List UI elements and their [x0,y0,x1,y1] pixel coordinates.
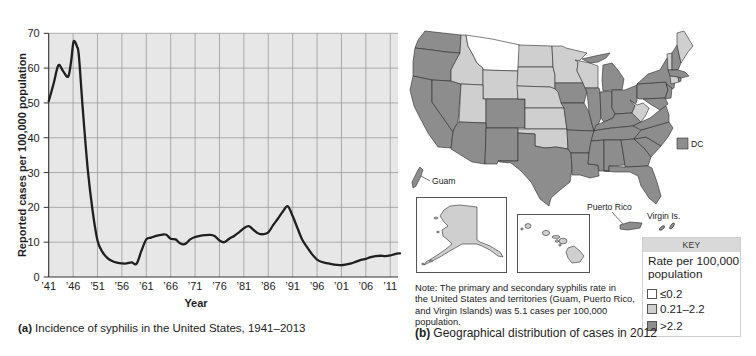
note-line-1: Note: The primary and secondary syphilis… [415,282,635,293]
puerto-rico-label: Puerto Rico [587,202,632,212]
key-header: KEY [643,238,740,252]
note-line-3: and Virgin Islands) was 5.1 cases per 10… [415,305,635,316]
hawaii-big-island [566,246,584,263]
key-swatch-mid [647,304,657,314]
hawaii-lanai [556,240,559,243]
state-AK [424,205,503,265]
hawaii-kauai [525,224,531,229]
key-item-low-label: ≤0.2 [660,288,682,300]
key-item-mid-label: 0.21–2.2 [660,303,705,315]
hawaii-oahu [542,230,549,235]
figure-b-caption: (b)Geographical distribution of cases in… [415,326,657,340]
alaska-island-2 [429,260,432,262]
key-title: Rate per 100,000 population [643,255,740,281]
map-note: Note: The primary and secondary syphilis… [415,282,635,328]
hawaii-niihau [521,228,524,230]
hawaii-maui [559,238,567,244]
alaska-island-1 [434,217,438,219]
figure-b-caption-text: Geographical distribution of cases in 20… [433,326,656,340]
key-item-mid: 0.21–2.2 [647,303,705,315]
key-swatch-low [647,289,657,299]
alaska-island-3 [422,263,425,265]
key-title-line2: population [648,268,740,281]
key-item-low: ≤0.2 [647,288,682,300]
figure-b-caption-label: (b) [415,326,430,340]
alaska-island-4 [437,231,440,233]
key-item-high-label: >2.2 [660,320,683,332]
hawaii-molokai [552,236,560,239]
map-key: KEY Rate per 100,000 population ≤0.2 0.2… [642,237,741,337]
dc-label: DC [691,139,703,149]
virgin-islands-label: Virgin Is. [647,211,680,221]
hawaii-kahoolawe [559,244,562,246]
guam-label: Guam [432,176,455,186]
note-line-2: the United States and territories (Guam,… [415,293,635,304]
